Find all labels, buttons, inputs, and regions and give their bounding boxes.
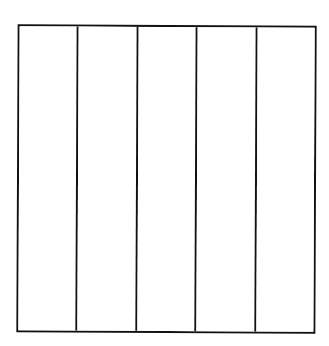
divided-rectangle — [16, 24, 316, 333]
column-3 — [137, 27, 198, 331]
column-1 — [18, 26, 79, 330]
column-2 — [78, 27, 139, 331]
column-4 — [197, 27, 258, 331]
column-5 — [256, 27, 315, 331]
